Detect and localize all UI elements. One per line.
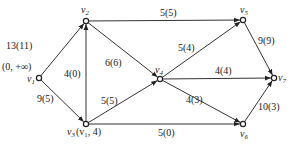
edge-label: 10(3) — [258, 101, 280, 113]
node-label: v3 — [67, 126, 75, 139]
edge-label: 6(6) — [105, 57, 122, 69]
edge-v2-v5 — [89, 20, 240, 21]
node-v5 — [240, 17, 245, 22]
edge-label: 5(4) — [178, 42, 195, 54]
node-annotation: (v₁, 4) — [76, 126, 101, 138]
node-v2 — [83, 18, 88, 23]
nodes-layer: v1(0, +∞)v2v3(v₁, 4)v4v5v6v7 — [2, 4, 286, 141]
edge-v4-v7 — [163, 78, 271, 79]
network-flow-diagram: 13(11)9(5)4(0)6(6)5(5)5(5)5(0)5(4)4(4)4(… — [0, 0, 289, 150]
node-label: v1 — [27, 73, 35, 86]
node-v4 — [157, 76, 162, 81]
edge-label: 9(5) — [37, 93, 54, 105]
edges-layer: 13(11)9(5)4(0)6(6)5(5)5(5)5(0)5(4)4(4)4(… — [6, 7, 280, 139]
node-label: v2 — [81, 4, 89, 17]
node-label: v4 — [155, 64, 163, 77]
edge-label: 4(4) — [215, 65, 232, 77]
node-label: v6 — [240, 128, 248, 141]
edge-label: 5(5) — [101, 95, 118, 107]
graph-canvas: 13(11)9(5)4(0)6(6)5(5)5(5)5(0)5(4)4(4)4(… — [0, 0, 289, 150]
node-v6 — [240, 121, 245, 126]
node-label: v7 — [278, 72, 286, 85]
node-v7 — [271, 75, 276, 80]
edge-v5-v7 — [244, 22, 272, 75]
node-annotation: (0, +∞) — [2, 61, 31, 73]
edge-label: 5(0) — [158, 127, 175, 139]
edge-v3-v4 — [88, 81, 157, 123]
node-label: v5 — [240, 4, 248, 17]
edge-v2-v4 — [88, 23, 158, 77]
edge-label: 9(9) — [258, 35, 275, 47]
node-v1 — [36, 75, 41, 80]
edge-label: 4(0) — [64, 68, 81, 80]
edge-label: 5(5) — [160, 7, 177, 19]
edge-label: 13(11) — [6, 40, 32, 52]
edge-label: 4(3) — [186, 94, 203, 106]
